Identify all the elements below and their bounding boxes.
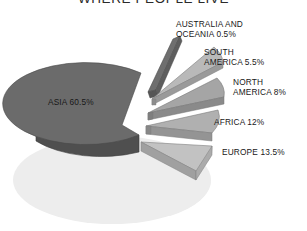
slice-label-south-america: SOUTH AMERICA 5.5% (204, 48, 264, 67)
pie-chart-figure: WHERE PEOPLE LIVE (0, 0, 307, 231)
slice-label-europe: EUROPE 13.5% (222, 148, 285, 158)
pie-chart-graphic (0, 0, 307, 231)
slice-label-australia-oceania: AUSTRALIA AND OCEANIA 0.5% (176, 20, 243, 39)
slice-asia (3, 63, 141, 157)
slice-label-north-america: NORTH AMERICA 8% (233, 78, 286, 97)
slice-label-africa: AFRICA 12% (214, 118, 264, 128)
slice-label-asia: ASIA 60.5% (48, 98, 94, 108)
